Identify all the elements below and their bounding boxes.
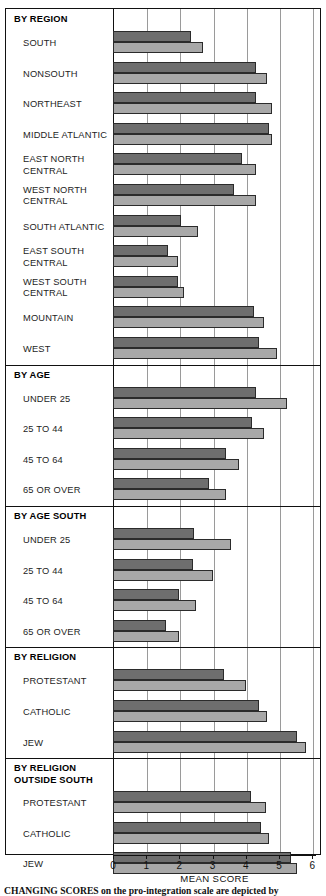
section-header-row: BY RELIGION bbox=[5, 647, 321, 666]
category-row: EAST NORTHCENTRAL bbox=[5, 150, 321, 181]
section-header-label: BY AGE bbox=[5, 370, 122, 381]
bar-first-period bbox=[113, 731, 297, 742]
x-tick-label-4: 4 bbox=[243, 860, 249, 871]
x-tick-3 bbox=[213, 855, 214, 859]
bar-second-period bbox=[113, 459, 239, 470]
x-tick-1 bbox=[146, 855, 147, 859]
x-tick-label-2: 2 bbox=[177, 860, 183, 871]
section-header-label: BY RELIGION bbox=[5, 652, 122, 663]
section-header-row: BY AGE SOUTH bbox=[5, 506, 321, 525]
bar-first-period bbox=[113, 387, 256, 398]
category-row: SOUTH ATLANTIC bbox=[5, 212, 321, 243]
bar-first-period bbox=[113, 337, 259, 348]
bar-first-period bbox=[113, 417, 252, 428]
bar-second-period bbox=[113, 103, 272, 114]
bar-first-period bbox=[113, 448, 226, 459]
section-header-label: BY REGION bbox=[5, 14, 122, 25]
bar-first-period bbox=[113, 215, 181, 226]
bar-first-period bbox=[113, 700, 259, 711]
bar-second-period bbox=[113, 398, 287, 409]
category-row: CATHOLIC bbox=[5, 819, 321, 850]
bar-first-period bbox=[113, 620, 166, 631]
bar-second-period bbox=[113, 42, 203, 53]
x-tick-5 bbox=[279, 855, 280, 859]
category-row: 45 TO 64 bbox=[5, 445, 321, 476]
bar-second-period bbox=[113, 711, 267, 722]
x-tick-6 bbox=[312, 855, 313, 859]
bar-first-period bbox=[113, 184, 234, 195]
bar-first-period bbox=[113, 62, 256, 73]
bar-second-period bbox=[113, 73, 267, 84]
bar-first-period bbox=[113, 123, 269, 134]
category-row: JEW bbox=[5, 728, 321, 759]
bar-first-period bbox=[113, 153, 242, 164]
bar-second-period bbox=[113, 164, 256, 175]
bar-first-period bbox=[113, 589, 179, 600]
category-row: 25 TO 44 bbox=[5, 414, 321, 445]
bar-second-period bbox=[113, 680, 246, 691]
category-row: NONSOUTH bbox=[5, 59, 321, 90]
category-row: WEST SOUTHCENTRAL bbox=[5, 273, 321, 304]
bar-second-period bbox=[113, 833, 269, 844]
bar-second-period bbox=[113, 317, 264, 328]
category-row: MIDDLE ATLANTIC bbox=[5, 120, 321, 151]
category-row: MOUNTAIN bbox=[5, 303, 321, 334]
bar-second-period bbox=[113, 570, 213, 581]
category-row: 45 TO 64 bbox=[5, 586, 321, 617]
bar-first-period bbox=[113, 559, 193, 570]
x-tick-4 bbox=[246, 855, 247, 859]
section-header-row: BY REGION bbox=[5, 9, 321, 28]
section-header-row: BY RELIGIONOUTSIDE SOUTH bbox=[5, 758, 321, 788]
bar-first-period bbox=[113, 528, 194, 539]
category-row: EAST SOUTHCENTRAL bbox=[5, 242, 321, 273]
x-tick-label-5: 5 bbox=[276, 860, 282, 871]
bar-second-period bbox=[113, 600, 196, 611]
bar-second-period bbox=[113, 348, 277, 359]
section-header-label: BY AGE SOUTH bbox=[5, 511, 122, 522]
bar-first-period bbox=[113, 31, 191, 42]
bar-first-period bbox=[113, 822, 261, 833]
category-row: 65 OR OVER bbox=[5, 617, 321, 648]
bar-second-period bbox=[113, 539, 231, 550]
category-row: WEST NORTHCENTRAL bbox=[5, 181, 321, 212]
figure-caption: CHANGING SCORES on the pro-integration s… bbox=[4, 886, 324, 896]
bar-second-period bbox=[113, 226, 198, 237]
x-tick-label-6: 6 bbox=[309, 860, 315, 871]
x-tick-2 bbox=[179, 855, 180, 859]
bar-second-period bbox=[113, 631, 179, 642]
bar-first-period bbox=[113, 669, 224, 680]
bar-second-period bbox=[113, 802, 266, 813]
bar-first-period bbox=[113, 306, 254, 317]
bar-first-period bbox=[113, 245, 168, 256]
category-row: UNDER 25 bbox=[5, 525, 321, 556]
section-header-row: BY AGE bbox=[5, 365, 321, 384]
bar-first-period bbox=[113, 276, 178, 287]
caption-lead: CHANGING SCORES bbox=[4, 886, 99, 896]
bar-second-period bbox=[113, 428, 264, 439]
x-tick-0 bbox=[113, 855, 114, 859]
bar-first-period bbox=[113, 791, 251, 802]
bar-second-period bbox=[113, 287, 184, 298]
category-row: SOUTH bbox=[5, 28, 321, 59]
bar-second-period bbox=[113, 134, 272, 145]
category-row: CATHOLIC bbox=[5, 697, 321, 728]
category-row: 65 OR OVER bbox=[5, 475, 321, 506]
caption-rest: on the pro-integration scale are depicte… bbox=[99, 886, 279, 896]
category-row: NORTHEAST bbox=[5, 89, 321, 120]
x-tick-label-3: 3 bbox=[210, 860, 216, 871]
category-row: UNDER 25 bbox=[5, 384, 321, 415]
chart-figure: BY REGIONSOUTHNONSOUTHNORTHEASTMIDDLE AT… bbox=[0, 0, 326, 896]
x-axis-line bbox=[113, 855, 316, 856]
category-row: PROTESTANT bbox=[5, 666, 321, 697]
bar-second-period bbox=[113, 195, 256, 206]
chart-rows: BY REGIONSOUTHNONSOUTHNORTHEASTMIDDLE AT… bbox=[5, 8, 321, 855]
section-header-label: BY RELIGIONOUTSIDE SOUTH bbox=[5, 763, 122, 786]
bar-second-period bbox=[113, 489, 226, 500]
category-row: PROTESTANT bbox=[5, 788, 321, 819]
bar-first-period bbox=[113, 478, 209, 489]
x-tick-label-0: 0 bbox=[110, 860, 116, 871]
category-row: 25 TO 44 bbox=[5, 556, 321, 587]
bar-second-period bbox=[113, 742, 306, 753]
bar-first-period bbox=[113, 92, 256, 103]
bar-second-period bbox=[113, 256, 178, 267]
